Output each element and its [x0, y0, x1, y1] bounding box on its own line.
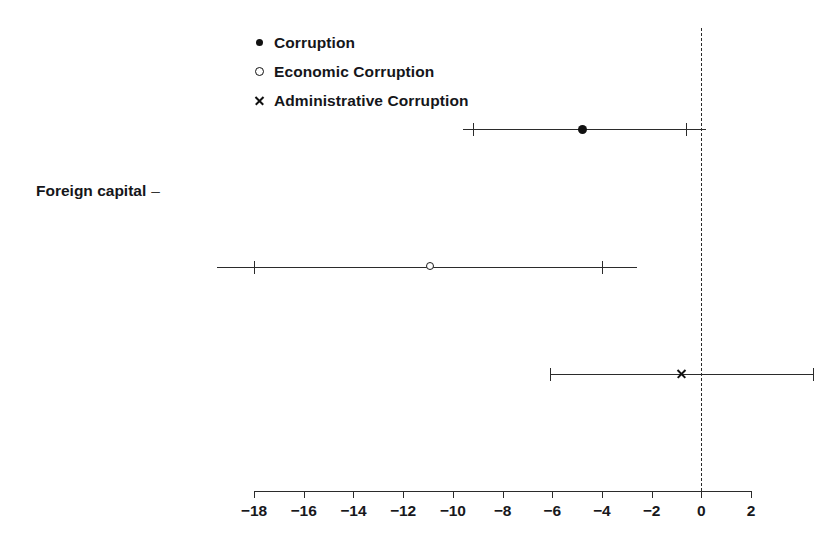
x-axis-tick: [304, 491, 305, 498]
plot-area: −18−16−14−12−10−8−6−4−202: [0, 0, 836, 547]
confidence-interval-cap: [254, 261, 255, 274]
x-axis-tick: [751, 491, 752, 498]
confidence-interval-cap: [813, 368, 814, 381]
x-axis-tick-label: 2: [747, 502, 756, 520]
x-axis-tick: [353, 491, 354, 498]
x-axis-tick: [453, 491, 454, 498]
forest-plot-figure: Corruption Economic Corruption Administr…: [0, 0, 836, 547]
x-axis-tick-label: −14: [340, 502, 366, 520]
x-axis-tick-label: −16: [291, 502, 317, 520]
x-axis-tick-label: −12: [390, 502, 416, 520]
x-axis-tick-label: −2: [643, 502, 661, 520]
confidence-interval-cap: [473, 123, 474, 136]
zero-reference-line: [701, 28, 702, 491]
x-axis-tick: [403, 491, 404, 498]
x-axis-tick: [552, 491, 553, 498]
x-axis-tick: [652, 491, 653, 498]
x-axis-tick-label: −6: [543, 502, 561, 520]
confidence-interval-cap: [602, 261, 603, 274]
x-axis-tick-label: −8: [494, 502, 512, 520]
x-axis-tick-label: 0: [697, 502, 706, 520]
point-estimate-cross-icon: [676, 369, 687, 380]
x-axis-tick-label: −18: [241, 502, 267, 520]
confidence-interval-cap: [550, 368, 551, 381]
x-axis-tick: [254, 491, 255, 498]
x-axis-tick: [602, 491, 603, 498]
point-estimate-open-circle-icon: [426, 262, 434, 270]
x-axis-tick: [701, 491, 702, 498]
x-axis-tick-label: −4: [593, 502, 611, 520]
x-axis-tick: [503, 491, 504, 498]
point-estimate-filled-circle-icon: [578, 125, 587, 134]
confidence-interval-cap: [686, 123, 687, 136]
x-axis-tick-label: −10: [440, 502, 466, 520]
